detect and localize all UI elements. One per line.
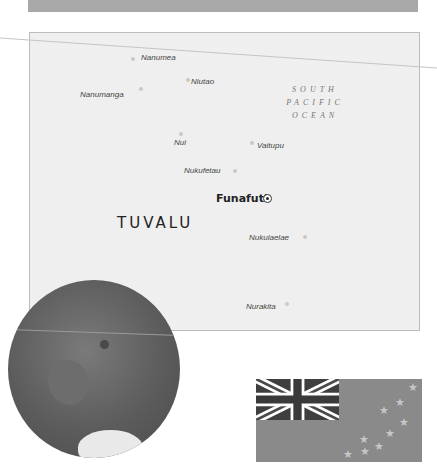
island-marker-icon[interactable] bbox=[285, 302, 289, 306]
star-icon: ★ bbox=[359, 434, 369, 445]
country-label: TUVALU bbox=[117, 214, 193, 232]
island-marker-icon[interactable] bbox=[131, 57, 135, 61]
globe-equator-line bbox=[8, 329, 180, 336]
ocean-label-line-1: SOUTH bbox=[265, 83, 365, 96]
star-icon: ★ bbox=[385, 428, 395, 439]
island-marker-icon[interactable] bbox=[179, 132, 183, 136]
star-icon: ★ bbox=[395, 397, 405, 408]
locator-globe bbox=[8, 280, 180, 458]
island-label[interactable]: Nurakita bbox=[246, 302, 276, 311]
star-icon: ★ bbox=[399, 417, 409, 428]
island-marker-icon[interactable] bbox=[303, 235, 307, 239]
island-label[interactable]: Niutao bbox=[191, 77, 214, 86]
island-label[interactable]: Nui bbox=[174, 138, 186, 147]
ocean-label: SOUTH PACIFIC OCEAN bbox=[265, 83, 365, 122]
union-jack-icon bbox=[256, 379, 339, 420]
star-icon: ★ bbox=[379, 405, 389, 416]
header-bar bbox=[28, 0, 418, 12]
island-marker-icon[interactable] bbox=[233, 169, 237, 173]
island-label[interactable]: Vaitupu bbox=[257, 141, 284, 150]
island-label[interactable]: Nukulaelae bbox=[249, 233, 289, 242]
capital-marker-icon[interactable] bbox=[263, 194, 272, 203]
globe-landmass bbox=[48, 360, 88, 405]
island-marker-icon[interactable] bbox=[139, 87, 143, 91]
island-marker-icon[interactable] bbox=[250, 141, 254, 145]
star-icon: ★ bbox=[408, 382, 418, 393]
ocean-label-line-3: OCEAN bbox=[265, 109, 365, 122]
star-icon: ★ bbox=[360, 446, 370, 457]
star-icon: ★ bbox=[343, 449, 353, 460]
island-label[interactable]: Nanumea bbox=[141, 53, 176, 62]
ocean-label-line-2: PACIFIC bbox=[265, 96, 365, 109]
globe-location-marker-icon bbox=[100, 340, 109, 349]
capital-label[interactable]: Funafuti bbox=[216, 192, 268, 205]
globe-antarctica bbox=[78, 430, 143, 458]
island-label[interactable]: Nukufetau bbox=[184, 166, 220, 175]
island-label[interactable]: Nanumanga bbox=[80, 90, 124, 99]
country-flag: ★ ★ ★ ★ ★ ★ ★ ★ ★ bbox=[256, 379, 422, 462]
island-marker-icon[interactable] bbox=[186, 78, 190, 82]
star-icon: ★ bbox=[374, 441, 384, 452]
